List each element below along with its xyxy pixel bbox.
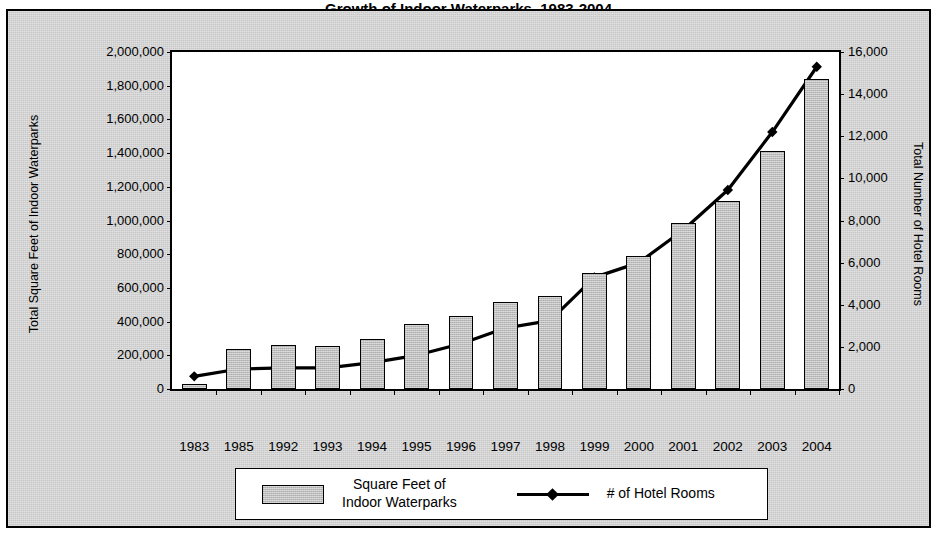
chart-legend: Square Feet of Indoor Waterparks # of Ho…: [235, 468, 768, 520]
left-axis-tick-label: 400,000: [117, 315, 164, 328]
right-axis-tick: [839, 136, 844, 137]
legend-label-hotel-rooms: # of Hotel Rooms: [607, 485, 715, 503]
right-axis-tick-label: 4,000: [848, 298, 881, 311]
right-axis-tick-label: 10,000: [848, 171, 888, 184]
bar-waterpark-sqft: [271, 345, 296, 389]
right-axis-tick: [839, 347, 844, 348]
bar-waterpark-sqft: [404, 324, 429, 389]
x-axis-tick: [216, 389, 217, 395]
left-axis-tick-label: 0: [157, 382, 164, 395]
x-axis-tick-label: 2000: [617, 440, 661, 454]
bar-waterpark-sqft: [671, 223, 696, 389]
left-axis-tick-label: 2,000,000: [106, 45, 164, 58]
left-axis-tick-label: 800,000: [117, 247, 164, 260]
diamond-marker-icon: [812, 62, 822, 72]
diamond-marker-icon: [189, 371, 199, 381]
left-axis-tick-label: 1,200,000: [106, 180, 164, 193]
right-axis-tick: [839, 305, 844, 306]
legend-label-waterparks: Square Feet of Indoor Waterparks: [342, 476, 457, 512]
bar-swatch-icon: [262, 485, 324, 504]
left-axis-tick: [167, 153, 172, 154]
left-axis-tick-label: 200,000: [117, 348, 164, 361]
legend-label-waterparks-line2: Indoor Waterparks: [342, 494, 457, 510]
left-axis-tick-label: 1,800,000: [106, 79, 164, 92]
left-axis-tick: [167, 187, 172, 188]
right-axis-tick-label: 16,000: [848, 45, 888, 58]
x-axis-tick: [483, 389, 484, 395]
plot-area: 0200,000400,000600,000800,0001,000,0001,…: [170, 50, 841, 391]
x-axis-tick-label: 1996: [439, 440, 483, 454]
bar-waterpark-sqft: [182, 384, 207, 389]
left-axis-tick: [167, 254, 172, 255]
bar-waterpark-sqft: [493, 302, 518, 389]
x-axis-tick-label: 1992: [261, 440, 305, 454]
left-axis-tick-label: 1,600,000: [106, 112, 164, 125]
right-axis-title: Total Number of Hotel Rooms: [911, 74, 925, 374]
left-axis-tick-label: 1,400,000: [106, 146, 164, 159]
right-axis-tick: [839, 221, 844, 222]
x-axis-tick-label: 1999: [572, 440, 616, 454]
left-axis-tick: [167, 322, 172, 323]
legend-entry-hotel-rooms: # of Hotel Rooms: [457, 469, 715, 519]
x-axis-tick: [839, 389, 840, 395]
right-axis-tick-label: 6,000: [848, 256, 881, 269]
chart-title: Growth of Indoor Waterparks, 1983-2004: [8, 1, 929, 11]
x-axis-tick: [394, 389, 395, 395]
x-axis-tick: [528, 389, 529, 395]
diamond-marker-icon: [723, 185, 733, 195]
left-axis-tick: [167, 86, 172, 87]
bar-waterpark-sqft: [315, 346, 340, 389]
left-axis-tick: [167, 119, 172, 120]
diamond-marker-icon: [546, 488, 559, 501]
x-axis-tick-label: 1997: [483, 440, 527, 454]
x-axis-tick-label: 2002: [706, 440, 750, 454]
bar-waterpark-sqft: [626, 256, 651, 389]
right-axis-tick-label: 8,000: [848, 214, 881, 227]
bar-waterpark-sqft: [582, 273, 607, 389]
x-axis-tick-label: 1994: [350, 440, 394, 454]
left-axis-tick: [167, 52, 172, 53]
right-axis-tick-label: 0: [848, 382, 855, 395]
left-axis-tick: [167, 221, 172, 222]
left-axis-tick-label: 600,000: [117, 281, 164, 294]
x-axis-tick: [350, 389, 351, 395]
x-axis-tick-label: 1985: [216, 440, 260, 454]
x-axis-tick-label: 1983: [172, 440, 216, 454]
x-axis-tick: [261, 389, 262, 395]
x-axis-tick: [750, 389, 751, 395]
left-axis-title: Total Square Feet of Indoor Waterparks: [27, 74, 41, 374]
right-axis-tick-label: 12,000: [848, 129, 888, 142]
legend-entry-waterparks: Square Feet of Indoor Waterparks: [236, 469, 457, 519]
x-axis-tick: [572, 389, 573, 395]
x-axis-tick: [305, 389, 306, 395]
right-axis-tick: [839, 263, 844, 264]
line-swatch-icon: [517, 486, 589, 502]
diamond-marker-icon: [767, 127, 777, 137]
bar-waterpark-sqft: [226, 349, 251, 389]
bar-waterpark-sqft: [360, 339, 385, 389]
x-axis-tick-label: 1993: [305, 440, 349, 454]
right-axis-tick: [839, 52, 844, 53]
left-axis-tick: [167, 355, 172, 356]
legend-label-waterparks-line1: Square Feet of: [353, 476, 446, 492]
left-axis-tick-label: 1,000,000: [106, 214, 164, 227]
x-axis-tick-label: 2001: [661, 440, 705, 454]
right-axis-tick: [839, 94, 844, 95]
bar-waterpark-sqft: [449, 316, 474, 389]
x-axis-tick: [661, 389, 662, 395]
x-axis-tick: [795, 389, 796, 395]
chart-frame: Growth of Indoor Waterparks, 1983-2004 T…: [6, 9, 931, 528]
x-axis-tick-label: 2003: [750, 440, 794, 454]
bar-waterpark-sqft: [804, 79, 829, 389]
x-axis-tick: [706, 389, 707, 395]
left-axis-tick: [167, 288, 172, 289]
bar-waterpark-sqft: [538, 296, 563, 389]
left-axis-tick: [167, 389, 172, 390]
bar-waterpark-sqft: [760, 151, 785, 389]
right-axis-tick-label: 14,000: [848, 87, 888, 100]
x-axis-tick-label: 1995: [394, 440, 438, 454]
x-axis-tick-label: 2004: [795, 440, 839, 454]
bar-waterpark-sqft: [715, 201, 740, 389]
right-axis-tick-label: 2,000: [848, 340, 881, 353]
x-axis-tick: [617, 389, 618, 395]
